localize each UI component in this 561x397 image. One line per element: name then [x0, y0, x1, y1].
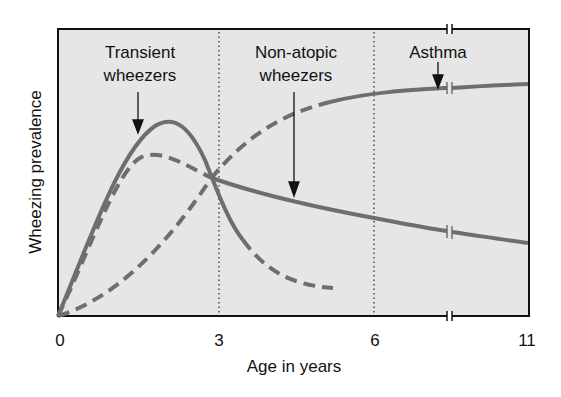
annotation-transient-line2: wheezers — [103, 66, 177, 85]
y-axis-title: Wheezing prevalence — [26, 90, 45, 253]
x-tick-0: 0 — [55, 331, 64, 350]
annotation-asthma: Asthma — [409, 43, 467, 62]
annotation-transient-line1: Transient — [105, 43, 176, 62]
annotation-nonatopic-line2: wheezers — [259, 66, 333, 85]
x-axis-title: Age in years — [247, 357, 342, 376]
x-tick-3: 3 — [214, 331, 223, 350]
x-tick-6: 6 — [370, 331, 379, 350]
wheezing-prevalence-chart: Transient wheezers Non-atopic wheezers A… — [0, 0, 561, 397]
x-tick-11: 11 — [518, 331, 536, 350]
annotation-nonatopic-line1: Non-atopic — [255, 43, 338, 62]
